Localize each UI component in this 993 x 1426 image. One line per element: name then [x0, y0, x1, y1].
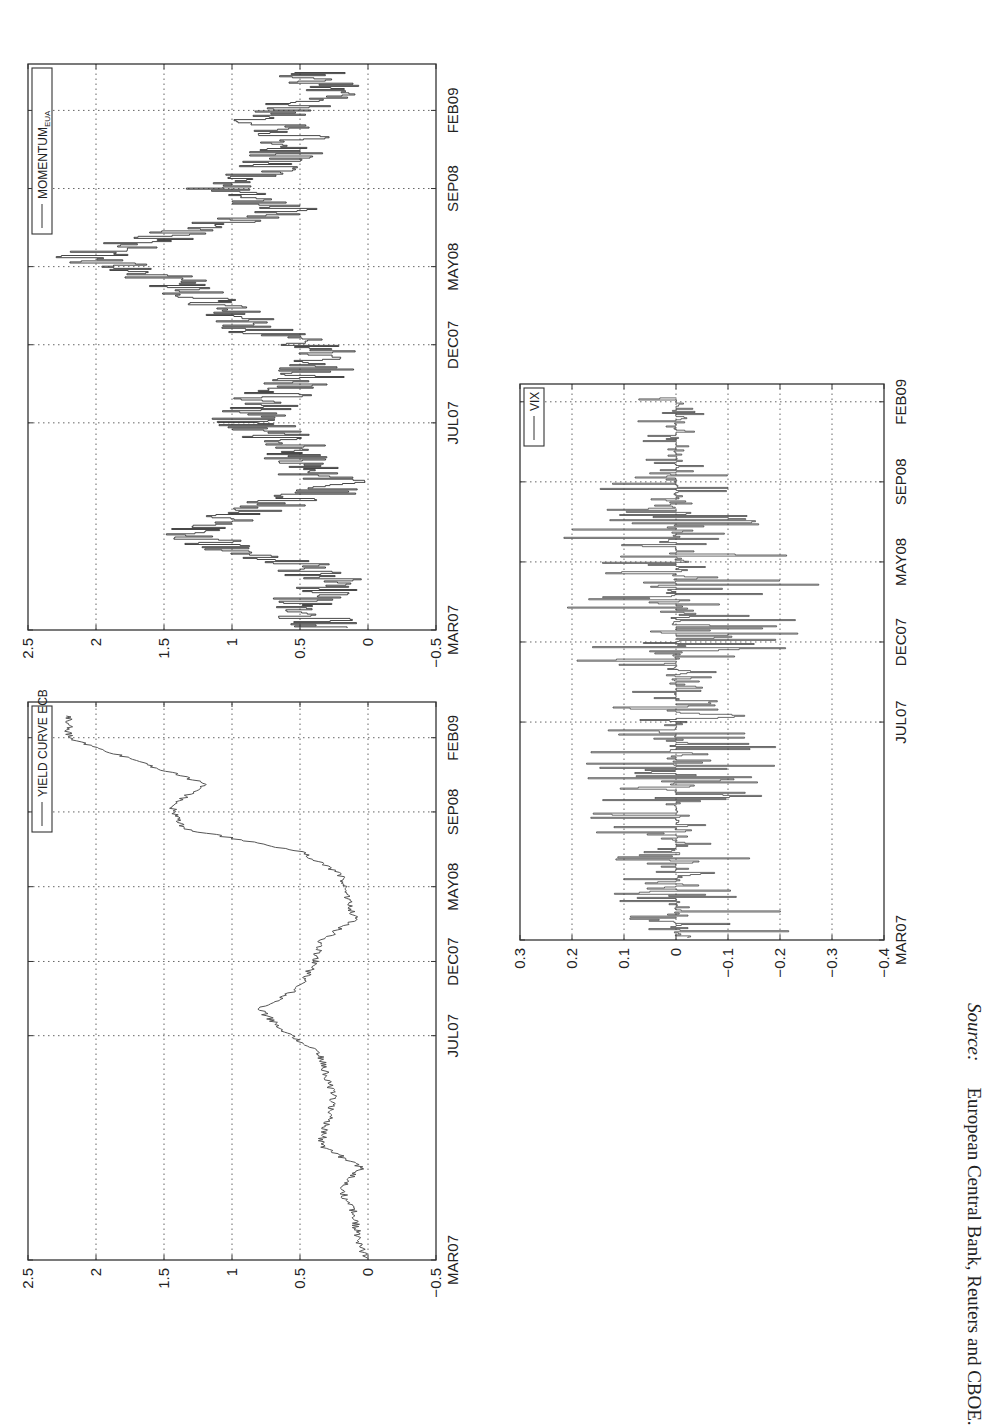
legend-label: YIELD CURVE ECB	[36, 689, 50, 797]
y-tick-label: 0.3	[511, 948, 528, 969]
y-tick-label: 1	[223, 1268, 240, 1276]
y-tick-label: 1	[223, 638, 240, 646]
y-tick-label: 0	[667, 948, 684, 956]
x-tick-label: JUL07	[444, 401, 461, 444]
legend: MOMENTUMEUA	[32, 68, 52, 234]
yield-curve-plot: −0.500.511.522.5MAR07JUL07DEC07MAY08SEP0…	[10, 690, 510, 1320]
y-tick-label: 0.5	[291, 638, 308, 659]
momentum-chart: −0.500.511.522.5MAR07JUL07DEC07MAY08SEP0…	[10, 50, 510, 690]
x-tick-label: JUL07	[444, 1014, 461, 1057]
y-tick-label: 2.5	[19, 1268, 36, 1289]
x-tick-label: FEB09	[444, 715, 461, 761]
y-tick-label: −0.4	[875, 948, 892, 978]
yield-curve-series-line	[65, 716, 368, 1258]
x-tick-label: DEC07	[892, 618, 909, 666]
y-tick-label: 1.5	[155, 1268, 172, 1289]
y-tick-label: 1.5	[155, 638, 172, 659]
vix-chart: −0.4−0.3−0.2−0.100.10.20.3MAR07JUL07DEC0…	[502, 370, 972, 1000]
x-tick-label: SEP08	[444, 165, 461, 212]
axes: −0.500.511.522.5MAR07JUL07DEC07MAY08SEP0…	[19, 64, 461, 668]
y-tick-label: 0.1	[615, 948, 632, 969]
momentum-plot: −0.500.511.522.5MAR07JUL07DEC07MAY08SEP0…	[10, 50, 510, 690]
x-tick-label: DEC07	[444, 321, 461, 369]
y-tick-label: 2	[87, 1268, 104, 1276]
legend: VIX	[524, 388, 544, 446]
y-tick-label: −0.5	[427, 1268, 444, 1298]
vix-series-line	[564, 398, 819, 938]
x-tick-label: MAY08	[444, 243, 461, 291]
x-tick-label: FEB09	[892, 379, 909, 425]
x-tick-label: SEP08	[444, 789, 461, 836]
source-note: Source:European Central Bank, Reuters an…	[963, 1003, 985, 1426]
x-tick-label: MAY08	[444, 863, 461, 911]
y-tick-label: 0	[359, 638, 376, 646]
source-text: European Central Bank, Reuters and CBOE.	[964, 1087, 985, 1425]
source-label: Source:	[964, 1003, 985, 1061]
axes: −0.4−0.3−0.2−0.100.10.20.3MAR07JUL07DEC0…	[511, 379, 909, 978]
y-tick-label: 2.5	[19, 638, 36, 659]
legend: YIELD CURVE ECB	[32, 689, 52, 832]
y-tick-label: −0.1	[719, 948, 736, 978]
y-tick-label: 2	[87, 638, 104, 646]
vix-plot: −0.4−0.3−0.2−0.100.10.20.3MAR07JUL07DEC0…	[502, 370, 972, 1000]
x-tick-label: MAY08	[892, 538, 909, 586]
x-tick-label: SEP08	[892, 459, 909, 506]
legend-label: VIX	[528, 392, 542, 411]
x-tick-label: DEC07	[444, 937, 461, 985]
y-tick-label: 0.5	[291, 1268, 308, 1289]
y-tick-label: −0.3	[823, 948, 840, 978]
x-tick-label: JUL07	[892, 700, 909, 743]
axes: −0.500.511.522.5MAR07JUL07DEC07MAY08SEP0…	[19, 702, 461, 1298]
x-tick-label: FEB09	[444, 87, 461, 133]
x-tick-label: MAR07	[444, 605, 461, 655]
x-tick-label: MAR07	[444, 1235, 461, 1285]
momentum-series-line	[56, 73, 365, 629]
x-tick-label: MAR07	[892, 915, 909, 965]
y-tick-label: −0.5	[427, 638, 444, 668]
y-tick-label: −0.2	[771, 948, 788, 978]
yield-curve-chart: −0.500.511.522.5MAR07JUL07DEC07MAY08SEP0…	[10, 690, 510, 1320]
y-tick-label: 0.2	[563, 948, 580, 969]
y-tick-label: 0	[359, 1268, 376, 1276]
